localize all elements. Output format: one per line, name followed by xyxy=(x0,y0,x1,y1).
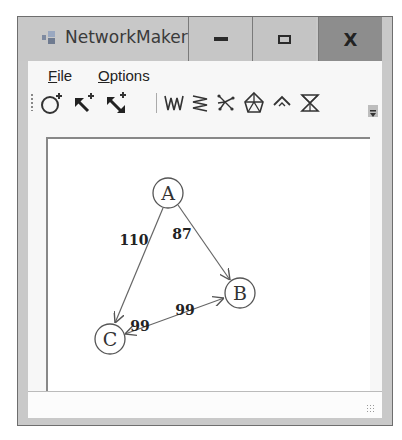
client-area: File Options xyxy=(28,61,382,417)
node-a-label: A xyxy=(160,182,175,204)
menu-file[interactable]: File xyxy=(48,67,72,84)
overflow-chevron-icon xyxy=(368,108,378,120)
status-bar xyxy=(28,391,382,418)
toolbar-overflow-button[interactable] xyxy=(368,105,378,117)
menu-options[interactable]: Options xyxy=(98,67,150,84)
close-button[interactable]: X xyxy=(318,17,382,61)
network-graph: A B C 110 87 99 99 xyxy=(48,139,370,391)
shortest-path-button[interactable] xyxy=(242,91,266,115)
toolbar xyxy=(28,87,382,119)
link-a-b[interactable] xyxy=(178,205,230,280)
toolbar-grip[interactable] xyxy=(31,93,33,111)
network-app-icon xyxy=(42,31,56,45)
zigzag-icon xyxy=(188,91,212,115)
layout-zigzag-button[interactable] xyxy=(188,91,212,115)
menu-file-mnemonic: F xyxy=(48,67,57,84)
link-b-c-cost: 99 xyxy=(130,318,149,334)
minimize-button[interactable] xyxy=(188,17,252,61)
maximize-button[interactable] xyxy=(252,17,316,61)
node-c-label: C xyxy=(103,328,118,350)
network-shape-icon xyxy=(242,91,266,115)
title-bar[interactable]: NetworkMaker X xyxy=(18,17,392,61)
link-a-b-cost: 87 xyxy=(172,226,191,242)
resize-grip[interactable] xyxy=(366,404,376,414)
link-a-c-cost: 110 xyxy=(119,232,148,248)
menu-file-label: ile xyxy=(57,67,72,84)
add-link-button[interactable] xyxy=(72,91,96,115)
toolbar-separator xyxy=(156,93,157,113)
random-network-button[interactable] xyxy=(214,91,238,115)
menu-bar: File Options xyxy=(28,61,382,85)
window-title: NetworkMaker xyxy=(65,27,188,47)
node-a[interactable]: A xyxy=(153,178,183,208)
path-tree-button[interactable] xyxy=(270,91,294,115)
add-node-button[interactable] xyxy=(40,91,64,115)
circle-plus-icon xyxy=(40,91,64,115)
double-arrow-plus-icon xyxy=(104,91,128,115)
node-c[interactable]: C xyxy=(95,324,125,354)
hourglass-network-button[interactable] xyxy=(298,91,322,115)
wave-m-icon xyxy=(162,91,186,115)
menu-options-label: ptions xyxy=(110,67,150,84)
app-window: NetworkMaker X File Options xyxy=(17,16,393,426)
add-two-way-link-button[interactable] xyxy=(104,91,128,115)
network-canvas[interactable]: A B C 110 87 99 99 xyxy=(46,137,370,391)
close-icon: X xyxy=(344,29,358,50)
layout-grid-button[interactable] xyxy=(162,91,186,115)
node-b[interactable]: B xyxy=(225,278,255,308)
arrow-plus-icon xyxy=(72,91,96,115)
link-a-c[interactable] xyxy=(115,208,163,323)
scatter-icon xyxy=(214,91,238,115)
link-c-b-cost: 99 xyxy=(175,302,194,318)
tree-arrow-icon xyxy=(270,91,294,115)
hourglass-icon xyxy=(298,91,322,115)
minimize-icon xyxy=(214,37,228,41)
node-b-label: B xyxy=(233,282,247,304)
maximize-icon xyxy=(278,35,291,44)
menu-options-mnemonic: O xyxy=(98,67,110,84)
